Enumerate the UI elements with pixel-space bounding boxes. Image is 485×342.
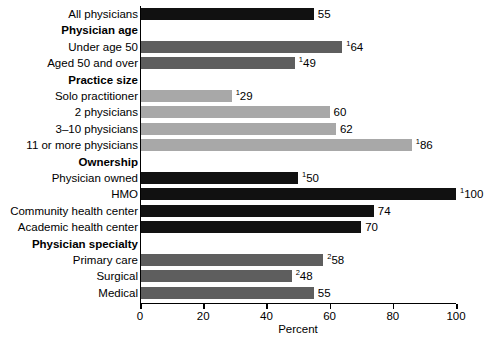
bar-value-label: 55 bbox=[318, 6, 331, 22]
bar-value-label: 70 bbox=[365, 219, 378, 235]
bar-value-number: 60 bbox=[334, 106, 347, 118]
bar bbox=[140, 41, 342, 53]
bar-value-label: 62 bbox=[340, 121, 353, 137]
x-axis-tick-label: 60 bbox=[310, 309, 350, 323]
chart-bar-row: HMO1100 bbox=[0, 186, 485, 202]
bar-value-number: 48 bbox=[300, 270, 313, 282]
bar-value-number: 62 bbox=[340, 123, 353, 135]
bar bbox=[140, 287, 314, 299]
chart-bar-row: Primary care258 bbox=[0, 252, 485, 268]
category-label: All physicians bbox=[0, 6, 138, 22]
category-label: Academic health center bbox=[0, 219, 138, 235]
chart-group-header-row: Practice size bbox=[0, 72, 485, 88]
x-axis-tick-label: 20 bbox=[183, 309, 223, 323]
bar-value-number: 49 bbox=[303, 57, 316, 69]
bar-chart: All physicians55Physician ageUnder age 5… bbox=[0, 0, 485, 342]
chart-group-header-row: Physician specialty bbox=[0, 236, 485, 252]
category-label: HMO bbox=[0, 186, 138, 202]
bar bbox=[140, 221, 361, 233]
bar-value-number: 74 bbox=[378, 205, 391, 217]
chart-bar-row: 2 physicians60 bbox=[0, 104, 485, 120]
bar bbox=[140, 205, 374, 217]
category-label: 11 or more physicians bbox=[0, 137, 138, 153]
bar-value-label: 55 bbox=[318, 285, 331, 301]
category-label: Medical bbox=[0, 285, 138, 301]
chart-bar-row: All physicians55 bbox=[0, 6, 485, 22]
bar-value-label: 149 bbox=[299, 55, 316, 71]
bar-value-number: 29 bbox=[240, 90, 253, 102]
bar-value-number: 100 bbox=[464, 188, 483, 200]
bar bbox=[140, 188, 456, 200]
bar-value-number: 55 bbox=[318, 287, 331, 299]
bar bbox=[140, 8, 314, 20]
x-axis-tick-label: 80 bbox=[373, 309, 413, 323]
category-label: Aged 50 and over bbox=[0, 55, 138, 71]
chart-bar-row: Physician owned150 bbox=[0, 170, 485, 186]
category-label: Surgical bbox=[0, 268, 138, 284]
x-axis-title: Percent bbox=[140, 323, 456, 335]
bar bbox=[140, 123, 336, 135]
bar-value-label: 150 bbox=[302, 170, 319, 186]
bar bbox=[140, 106, 330, 118]
group-label: Ownership bbox=[0, 154, 138, 170]
chart-bar-row: Community health center74 bbox=[0, 203, 485, 219]
bar-value-label: 1100 bbox=[460, 186, 483, 202]
bar-value-label: 248 bbox=[296, 268, 313, 284]
category-label: Physician owned bbox=[0, 170, 138, 186]
chart-group-header-row: Ownership bbox=[0, 154, 485, 170]
group-label: Physician age bbox=[0, 22, 138, 38]
chart-bar-row: Surgical248 bbox=[0, 268, 485, 284]
category-label: Under age 50 bbox=[0, 39, 138, 55]
x-axis-tick-label: 40 bbox=[246, 309, 286, 323]
chart-bar-row: Aged 50 and over149 bbox=[0, 55, 485, 71]
bar bbox=[140, 270, 292, 282]
bar-value-number: 55 bbox=[318, 8, 331, 20]
bar bbox=[140, 172, 298, 184]
bar-value-label: 60 bbox=[334, 104, 347, 120]
bar bbox=[140, 90, 232, 102]
bar-value-number: 70 bbox=[365, 221, 378, 233]
group-label: Practice size bbox=[0, 72, 138, 88]
bar-value-number: 64 bbox=[350, 41, 363, 53]
bar-value-label: 258 bbox=[327, 252, 344, 268]
group-label: Physician specialty bbox=[0, 236, 138, 252]
chart-bar-row: 3–10 physicians62 bbox=[0, 121, 485, 137]
bar-value-number: 50 bbox=[306, 172, 319, 184]
chart-group-header-row: Physician age bbox=[0, 22, 485, 38]
bar bbox=[140, 254, 323, 266]
bar-value-label: 129 bbox=[236, 88, 253, 104]
chart-bar-row: Under age 50164 bbox=[0, 39, 485, 55]
bar-value-number: 58 bbox=[331, 254, 344, 266]
x-axis-tick-label: 0 bbox=[120, 309, 160, 323]
chart-bar-row: 11 or more physicians186 bbox=[0, 137, 485, 153]
bar-value-label: 186 bbox=[416, 137, 433, 153]
bar bbox=[140, 57, 295, 69]
chart-bar-row: Academic health center70 bbox=[0, 219, 485, 235]
category-label: Community health center bbox=[0, 203, 138, 219]
bar bbox=[140, 139, 412, 151]
category-label: Primary care bbox=[0, 252, 138, 268]
chart-bar-row: Solo practitioner129 bbox=[0, 88, 485, 104]
bar-value-number: 86 bbox=[420, 139, 433, 151]
category-label: 3–10 physicians bbox=[0, 121, 138, 137]
x-axis-tick-label: 100 bbox=[436, 309, 476, 323]
category-label: Solo practitioner bbox=[0, 88, 138, 104]
bar-value-label: 74 bbox=[378, 203, 391, 219]
category-label: 2 physicians bbox=[0, 104, 138, 120]
chart-bar-row: Medical55 bbox=[0, 285, 485, 301]
bar-value-label: 164 bbox=[346, 39, 363, 55]
